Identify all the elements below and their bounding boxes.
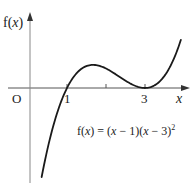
x-tick-label-3: 3 [141,92,148,105]
x-tick-label-1: 1 [64,92,71,105]
function-formula-label: f(x) = (x − 1)(x − 3)2 [77,124,175,137]
x-axis-label: x [176,92,182,106]
y-axis-label: f(x) [3,16,23,30]
graph-plot [0,0,195,193]
function-curve [42,40,181,177]
x-axis-arrow-icon [181,85,190,91]
y-axis-arrow-icon [27,12,33,21]
origin-label: O [12,92,21,105]
